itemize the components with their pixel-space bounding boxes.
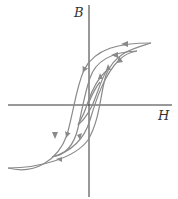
diagram-canvas [0,0,178,199]
hysteresis-diagram: B H [0,0,178,199]
inner-loop [78,70,107,125]
outer-loop [8,43,151,170]
b-axis-label: B [74,5,84,20]
h-axis-label: H [158,108,169,123]
